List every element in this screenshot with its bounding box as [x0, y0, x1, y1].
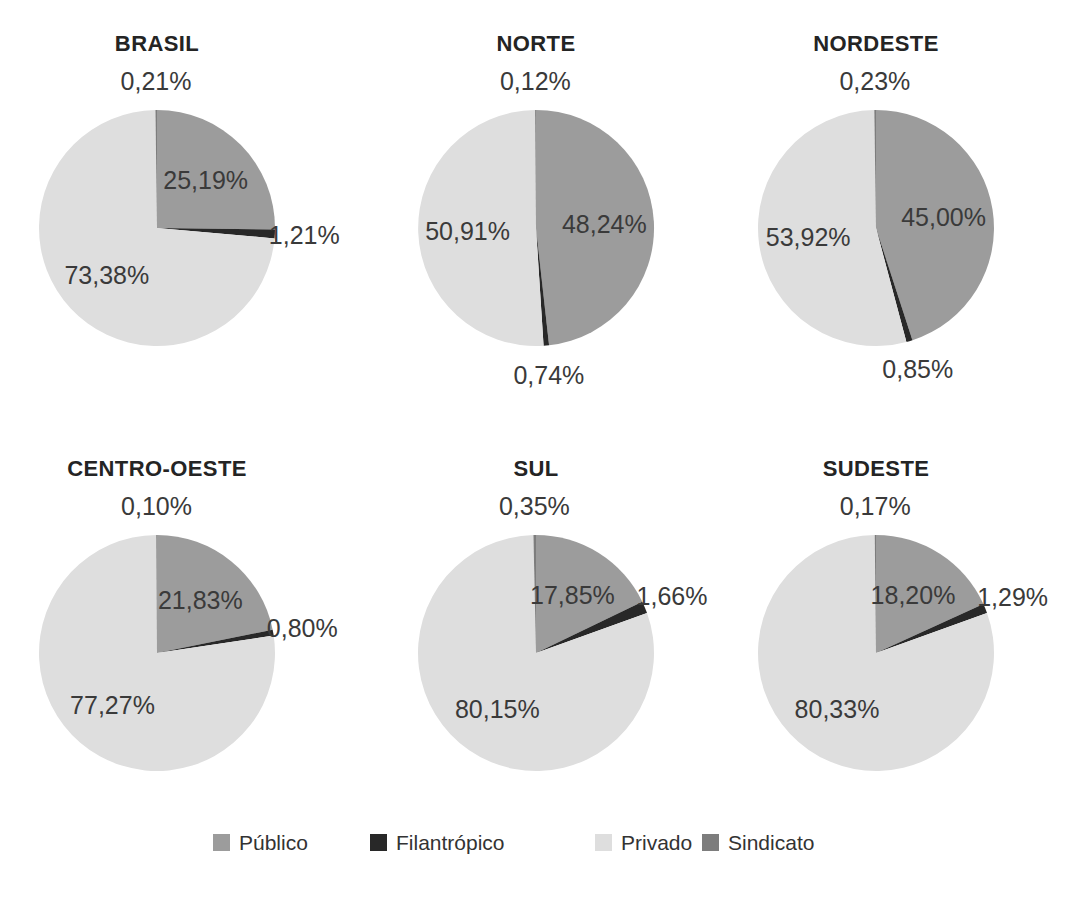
slice-label: 0,80% — [267, 615, 338, 640]
sindicato-swatch-icon — [702, 834, 719, 851]
chart-legend: Público Filantrópico Privado Sindicato — [0, 832, 1075, 862]
filantropico-swatch-icon — [370, 834, 387, 851]
slice-label: 77,27% — [70, 693, 155, 718]
slice-label: 0,10% — [121, 493, 192, 518]
pie-chart-centro-oeste: CENTRO-OESTE 21,83%0,80%77,27%0,10% — [0, 435, 322, 845]
legend-label-publico: Público — [239, 832, 308, 853]
slice-label: 0,12% — [500, 68, 571, 93]
pie-canvas-norte: 48,24%0,74%50,91%0,12% — [371, 10, 701, 420]
pie-canvas-nordeste: 45,00%0,85%53,92%0,23% — [711, 10, 1041, 420]
slice-label: 80,15% — [455, 697, 540, 722]
slice-label: 0,85% — [882, 357, 953, 382]
slice-label: 0,21% — [121, 68, 192, 93]
legend-item-privado: Privado — [595, 832, 692, 853]
legend-item-filantropico: Filantrópico — [370, 832, 505, 853]
slice-label: 53,92% — [766, 225, 851, 250]
pie-chart-sul: SUL 17,85%1,66%80,15%0,35% — [371, 435, 701, 845]
slice-label: 1,66% — [637, 583, 708, 608]
slice-label: 25,19% — [163, 167, 248, 192]
slice-label: 17,85% — [530, 583, 615, 608]
slice-label: 45,00% — [901, 205, 986, 230]
legend-label-privado: Privado — [621, 832, 692, 853]
slice-label: 0,35% — [499, 493, 570, 518]
pie-canvas-centro-oeste: 21,83%0,80%77,27%0,10% — [0, 435, 322, 845]
legend-label-filantropico: Filantrópico — [396, 832, 505, 853]
legend-label-sindicato: Sindicato — [728, 832, 814, 853]
slice-label: 73,38% — [64, 262, 149, 287]
legend-item-sindicato: Sindicato — [702, 832, 814, 853]
slice-label: 0,23% — [839, 68, 910, 93]
privado-swatch-icon — [595, 834, 612, 851]
pie-charts-figure: BRASIL 25,19%1,21%73,38%0,21% NORTE 48,2… — [0, 0, 1075, 906]
slice-label: 1,21% — [269, 223, 340, 248]
slice-label: 48,24% — [562, 212, 647, 237]
pie-chart-norte: NORTE 48,24%0,74%50,91%0,12% — [371, 10, 701, 420]
legend-item-publico: Público — [213, 832, 308, 853]
slice-label: 50,91% — [425, 218, 510, 243]
pie-chart-sudeste: SUDESTE 18,20%1,29%80,33%0,17% — [711, 435, 1041, 845]
pie-canvas-sul: 17,85%1,66%80,15%0,35% — [371, 435, 701, 845]
slice-label: 80,33% — [795, 697, 880, 722]
pie-chart-brasil: BRASIL 25,19%1,21%73,38%0,21% — [0, 10, 322, 420]
slice-label: 18,20% — [871, 583, 956, 608]
slice-label: 0,17% — [840, 493, 911, 518]
pie-canvas-sudeste: 18,20%1,29%80,33%0,17% — [711, 435, 1041, 845]
slice-label: 1,29% — [977, 585, 1048, 610]
pie-chart-nordeste: NORDESTE 45,00%0,85%53,92%0,23% — [711, 10, 1041, 420]
slice-label: 0,74% — [513, 362, 584, 387]
slice-label: 21,83% — [158, 588, 243, 613]
pie-canvas-brasil: 25,19%1,21%73,38%0,21% — [0, 10, 322, 420]
publico-swatch-icon — [213, 834, 230, 851]
